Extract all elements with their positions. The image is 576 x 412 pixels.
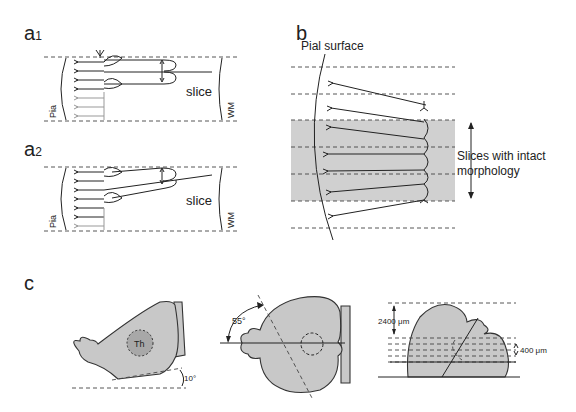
brain-sagittal: [74, 301, 179, 379]
slice-label: slice: [186, 84, 212, 99]
neurons-cut: [74, 208, 104, 230]
sagittal-brain: Th 10°: [72, 301, 196, 388]
cerebellum: [341, 306, 350, 383]
slicing-brain: 2400 μm 400 μm: [378, 303, 547, 377]
horizontal-brain: 55°: [220, 295, 350, 398]
thickness-arrow: [514, 344, 518, 355]
thickness-label: 400 μm: [520, 346, 547, 355]
wm-curve: [219, 168, 222, 230]
depth-label: 2400 μm: [378, 317, 410, 326]
thalamus-label: Th: [134, 339, 145, 349]
panel-label-c: c: [24, 272, 34, 294]
pia-curve: [61, 58, 66, 120]
panel-a2: a2 Pia WM slice: [24, 138, 240, 231]
pia-label: Pia: [48, 105, 58, 118]
slices-label: Slices with intactmorphology: [457, 149, 546, 178]
panel-label-a2: a2: [24, 138, 42, 160]
wm-label: WM: [226, 212, 236, 228]
neurons-cut: [74, 92, 104, 120]
angle-55-label: 55°: [232, 316, 246, 326]
panel-c: c Th 10° 55°: [24, 272, 547, 398]
angle-10-label: 10°: [184, 374, 196, 383]
panel-label-a1: a1: [24, 22, 42, 44]
panel-b: b Pial surface Slices with intactmorphol…: [291, 22, 546, 240]
slice-label: slice: [186, 193, 212, 208]
panel-a1: a1 Pia WM slice: [24, 22, 240, 121]
wm-label: WM: [226, 102, 236, 118]
brain-coronal: [408, 305, 509, 378]
brain-horizontal: [241, 297, 342, 393]
pial-surface-label: Pial surface: [301, 39, 364, 53]
figure-canvas: a1 Pia WM slice a2: [0, 0, 576, 412]
pia-curve: [61, 168, 66, 230]
pia-label: Pia: [48, 215, 58, 228]
wm-curve: [219, 58, 222, 120]
